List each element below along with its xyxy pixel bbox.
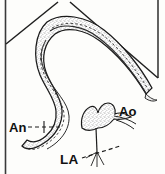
figure-drawing: [0, 0, 165, 174]
vessel-tip: [145, 94, 157, 101]
label-la: LA: [60, 152, 78, 167]
anatomical-figure: An Ao LA: [0, 0, 165, 174]
leader-la: [82, 146, 120, 158]
label-an: An: [9, 120, 27, 135]
label-ao: Ao: [119, 104, 137, 119]
atrial-stalk: [86, 128, 104, 167]
